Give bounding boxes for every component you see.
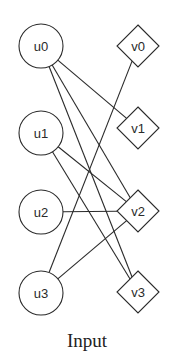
node-label: v0 — [131, 39, 145, 54]
bipartite-graph: u0u1u2u3v0v1v2v3 — [0, 0, 174, 363]
node-u2: u2 — [19, 190, 63, 234]
edge-u1-v3 — [52, 152, 130, 279]
node-label: u2 — [34, 205, 48, 220]
edge-u0-v1 — [58, 60, 127, 118]
edges — [49, 60, 132, 279]
node-label: v3 — [131, 285, 145, 300]
edge-u0-v3 — [49, 66, 132, 276]
node-v3: v3 — [117, 271, 159, 313]
edge-u0-v2 — [52, 65, 130, 198]
node-u3: u3 — [19, 271, 63, 315]
node-label: u0 — [34, 39, 48, 54]
node-label: u1 — [34, 126, 48, 141]
node-label: v2 — [131, 204, 145, 219]
node-u0: u0 — [19, 24, 63, 68]
node-v1: v1 — [117, 107, 159, 149]
node-u1: u1 — [19, 111, 63, 155]
node-label: v1 — [131, 121, 145, 136]
diagram-caption: Input — [0, 330, 174, 352]
node-label: u3 — [34, 286, 48, 301]
node-v0: v0 — [117, 25, 159, 67]
edge-u2-v2 — [63, 211, 117, 212]
edge-u3-v2 — [58, 221, 127, 279]
node-v2: v2 — [117, 190, 159, 232]
